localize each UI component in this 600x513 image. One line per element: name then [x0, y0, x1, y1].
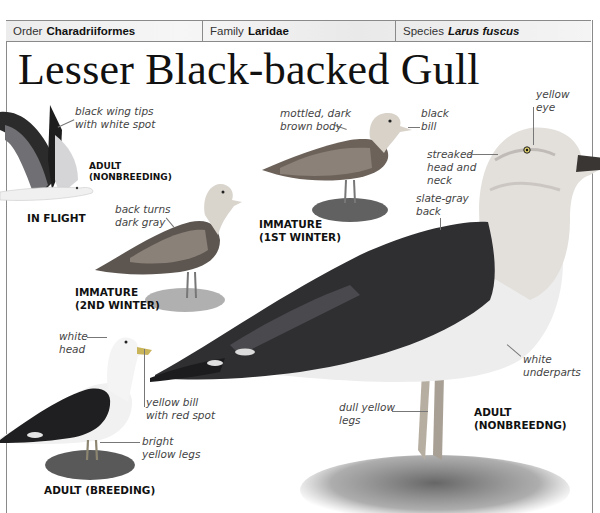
family-label: Family [210, 25, 244, 37]
species-cell: Species Larus fuscus [395, 21, 591, 41]
caption-adult-nonbreeding: ADULT (NONBREEDNG) [474, 406, 567, 432]
caption-immature-2nd-winter: IMMATURE (2ND WINTER) [75, 286, 160, 312]
label-yellow-eye: yellow eye [536, 88, 570, 114]
label-white-head: white head [59, 330, 88, 356]
taxonomy-header: Order Charadriiformes Family Laridae Spe… [6, 20, 591, 42]
family-value: Laridae [248, 25, 289, 37]
label-slate-gray-back: slate-gray back [416, 192, 469, 218]
page-title: Lesser Black-backed Gull [18, 44, 480, 95]
order-value: Charadriiformes [46, 25, 135, 37]
leader-line [100, 442, 140, 443]
gull-adult-nonbreeding-illustration [150, 120, 600, 513]
leader-line [87, 337, 107, 338]
leader-line [440, 218, 441, 230]
label-bright-yellow-legs: bright yellow legs [142, 435, 200, 461]
leader-line [392, 411, 428, 412]
leader-line [468, 154, 498, 155]
family-cell: Family Laridae [202, 21, 395, 41]
species-label: Species [403, 25, 444, 37]
label-dull-yellow-legs: dull yellow legs [339, 401, 395, 427]
caption-in-flight: IN FLIGHT [27, 212, 86, 225]
species-value: Larus fuscus [448, 25, 520, 37]
leader-line [144, 349, 145, 407]
label-black-wing-tips: black wing tips with white spot [75, 105, 155, 131]
label-yellow-bill-with-red-spot: yellow bill with red spot [146, 396, 215, 422]
order-cell: Order Charadriiformes [6, 21, 202, 41]
order-label: Order [13, 25, 42, 37]
leader-line [533, 107, 534, 145]
caption-adult-breeding: ADULT (BREEDING) [44, 484, 155, 497]
label-white-underparts: white underparts [523, 353, 581, 379]
